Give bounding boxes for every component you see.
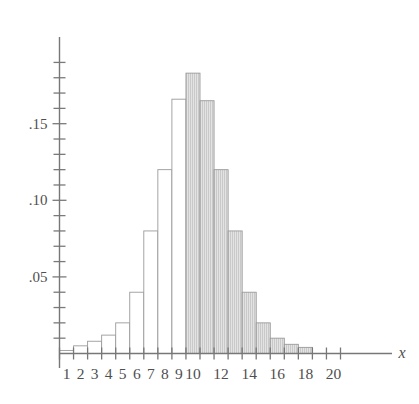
histogram-bar bbox=[130, 292, 144, 353]
histogram-bar bbox=[228, 231, 242, 354]
x-axis-tick-label: 16 bbox=[270, 365, 286, 382]
histogram-bar bbox=[270, 338, 284, 353]
x-axis-tick-labels: 123456789101214161820 bbox=[63, 365, 342, 382]
histogram-bar bbox=[256, 323, 270, 354]
histogram-bar bbox=[242, 292, 256, 353]
x-axis-tick-label: 10 bbox=[185, 365, 201, 382]
histogram-bar bbox=[200, 101, 214, 354]
x-axis-tick-label: 18 bbox=[298, 365, 314, 382]
x-axis-name-label: x bbox=[397, 344, 405, 361]
histogram-bar bbox=[116, 323, 130, 354]
x-axis-tick-label: 7 bbox=[147, 365, 155, 382]
probability-histogram-figure: 123456789101214161820 .05.10.15 x bbox=[0, 0, 419, 404]
histogram-bar bbox=[298, 347, 312, 353]
histogram-bar bbox=[214, 170, 228, 354]
y-axis-tick-labels: .05.10.15 bbox=[29, 116, 48, 285]
x-axis-tick-label: 4 bbox=[105, 365, 113, 382]
x-axis-tick-label: 12 bbox=[213, 365, 229, 382]
x-axis-tick-label: 9 bbox=[175, 365, 183, 382]
x-axis-tick-label: 20 bbox=[326, 365, 342, 382]
y-axis-tick-label: .05 bbox=[29, 269, 48, 285]
histogram-bar bbox=[158, 170, 172, 354]
x-axis-tick-label: 2 bbox=[77, 365, 85, 382]
y-axis-tick-label: .15 bbox=[29, 116, 48, 132]
x-axis-tick-label: 1 bbox=[63, 365, 71, 382]
x-axis-tick-label: 8 bbox=[161, 365, 169, 382]
histogram-bar bbox=[186, 73, 200, 353]
x-axis-tick-label: 6 bbox=[133, 365, 141, 382]
histogram-bar bbox=[172, 99, 186, 353]
histogram-bar bbox=[74, 346, 88, 354]
y-axis-tick-label: .10 bbox=[29, 192, 48, 208]
bars-group bbox=[60, 73, 313, 353]
histogram-bar bbox=[102, 335, 116, 353]
histogram-bar bbox=[284, 344, 298, 353]
histogram-svg: 123456789101214161820 .05.10.15 x bbox=[0, 0, 419, 404]
histogram-bar bbox=[144, 231, 158, 354]
x-axis-tick-label: 3 bbox=[91, 365, 99, 382]
histogram-bar bbox=[88, 341, 102, 353]
x-axis-tick-label: 5 bbox=[119, 365, 127, 382]
x-axis-tick-label: 14 bbox=[241, 365, 257, 382]
